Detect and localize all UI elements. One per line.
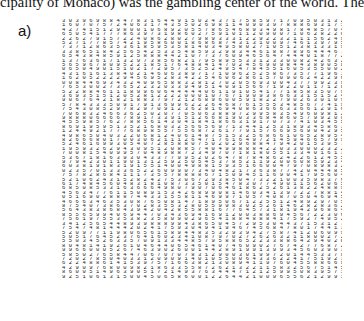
body-text-line: cipality of Monaco) was the gambling cen… [0, 0, 351, 11]
digit-row: 9 2 5 1 0 6 1 3 1 5 0 0 4 5 0 6 5 8 6 0 … [62, 275, 342, 279]
random-digit-table: 3 0 3 9 6 9 8 8 4 4 7 8 3 1 6 4 4 9 1 5 … [62, 19, 342, 279]
panel-label: a) [18, 22, 31, 39]
